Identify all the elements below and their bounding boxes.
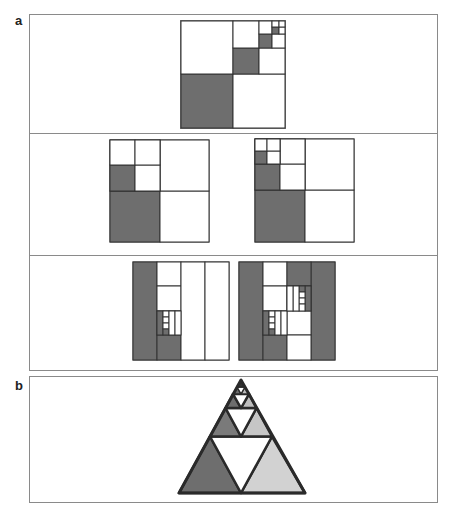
sierpinski-triangle — [179, 380, 305, 493]
recursive-square-middle-left — [110, 140, 209, 242]
column-strip-bottom-left — [133, 262, 229, 360]
column-strip-bottom-right — [239, 262, 335, 360]
figure-graphics — [0, 0, 454, 515]
recursive-square-middle-right — [255, 139, 354, 242]
recursive-square-top — [181, 21, 285, 128]
